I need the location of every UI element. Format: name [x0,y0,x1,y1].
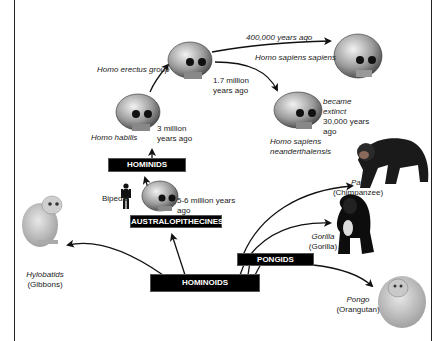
homo-habilis-label: Homo habilis [91,133,137,143]
skull-homo-sapiens-sapiens-icon [334,34,382,78]
neanderthal-note-4: ago [323,127,336,137]
pan-genus-label: Pan [330,178,386,188]
gibbon-icon [22,196,62,247]
neanderthal-label-2: neanderthalensis [270,147,331,157]
sapiens-time-label: 400,000 years ago [246,33,312,43]
homo-erectus-time-1: 1.7 million [213,76,249,86]
skull-homo-erectus-icon [168,42,212,79]
homo-erectus-time-2: years ago [213,86,248,96]
arrow-hominoids-to-australopithecines [172,235,185,275]
hylobatids-genus-label: Hylobatids [20,270,70,280]
homo-sapiens-sapiens-label: Homo sapiens sapiens [255,53,336,63]
pan-common-label: (Chimpanzee) [330,188,386,198]
bipedal-label: Bipedal [102,194,129,204]
skull-homo-habilis-icon [116,94,160,131]
neanderthal-note-1: became [323,97,351,107]
neanderthal-note-3: 30,000 years [323,117,369,127]
homo-erectus-label: Homo erectus group [97,65,169,75]
arrow-pongids-to-pongo [313,265,372,286]
australopithecine-time-2: ago [177,206,190,216]
pongo-common-label: (Orangutan) [330,305,386,315]
skull-neanderthal-icon [274,92,322,129]
neanderthal-label-1: Homo sapiens [270,137,321,147]
pongo-genus-label: Pongo [330,295,386,305]
pongids-box: PONGIDS [237,253,314,266]
neanderthal-note-2: extinct [323,107,346,117]
hominids-box: HOMINIDS [108,158,186,172]
hylobatids-common-label: (Gibbons) [20,280,70,290]
homo-habilis-time-2: years ago [157,134,192,144]
homo-habilis-time-1: 3 million [157,124,186,134]
gorilla-common-label: (Gorilla) [305,242,341,252]
hominoids-box: HOMINOIDS [150,274,260,292]
australopithecines-box: AUSTRALOPITHECINES [130,215,222,228]
gorilla-genus-label: Gorilla [305,232,341,242]
skull-australopithecine-icon [142,181,178,211]
gorilla-icon [337,194,374,254]
australopithecine-time-1: 5-6 million years [177,196,235,206]
arrow-hominoids-to-hylobatids [68,243,163,275]
